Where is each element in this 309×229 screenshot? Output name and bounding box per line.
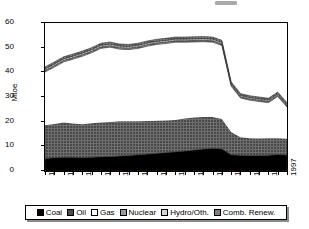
x-axis-tick-mark [278, 172, 279, 175]
legend-label: Gas [100, 209, 115, 217]
y-axis-tick-label: 20 [5, 117, 14, 125]
x-axis-tick-mark [222, 172, 223, 175]
x-axis-tick-mark [129, 172, 130, 175]
y-axis: Mtoe 0102030405060 [0, 0, 40, 229]
y-axis-tick-label: 30 [5, 92, 14, 100]
stacked-area-chart [45, 23, 287, 171]
x-axis-tick-mark [101, 172, 102, 175]
x-axis-tick-mark [110, 172, 111, 175]
x-axis-tick-mark [250, 172, 251, 175]
legend-label: Comb. Renew. [223, 209, 275, 217]
x-axis-tick-mark [213, 172, 214, 175]
legend-swatch-oil-icon [67, 209, 74, 216]
legend-item-gas[interactable]: Gas [91, 209, 115, 217]
x-axis-tick-mark [45, 172, 46, 175]
legend-label: Hydro/Oth. [170, 209, 209, 217]
scan-artifact [215, 1, 237, 5]
x-axis-tick-mark [73, 172, 74, 175]
legend-swatch-gas-icon [91, 209, 98, 216]
legend-swatch-combrenew-icon [214, 209, 221, 216]
chart-screenshot: Mtoe 0102030405060 [0, 0, 309, 229]
x-axis-tick-mark [194, 172, 195, 175]
legend-label: Coal [46, 209, 62, 217]
y-axis-tick-label: 40 [5, 67, 14, 75]
legend-item-coal[interactable]: Coal [37, 209, 62, 217]
chart-legend: CoalOilGasNuclearHydro/Oth.Comb. Renew. [25, 205, 287, 220]
x-axis-tick-mark [231, 172, 232, 175]
plot-area [44, 22, 288, 172]
legend-item-nuclear[interactable]: Nuclear [120, 209, 157, 217]
y-axis-tick-label: 50 [5, 43, 14, 51]
legend-label: Oil [76, 209, 86, 217]
y-axis-tick-label: 60 [5, 18, 14, 26]
legend-swatch-hydro-icon [161, 209, 168, 216]
x-axis-tick-mark [64, 172, 65, 175]
x-axis-tick-mark [166, 172, 167, 175]
legend-swatch-coal-icon [37, 209, 44, 216]
x-axis-tick-mark [138, 172, 139, 175]
x-axis-tick-mark [203, 172, 204, 175]
x-axis-tick-mark [54, 172, 55, 175]
x-axis-tick-mark [157, 172, 158, 175]
x-axis-tick-mark [92, 172, 93, 175]
legend-swatch-nuclear-icon [120, 209, 127, 216]
x-axis-tick-mark [240, 172, 241, 175]
x-axis-tick-mark [185, 172, 186, 175]
legend-item-hydro-oth[interactable]: Hydro/Oth. [161, 209, 209, 217]
y-axis-tick-label: 0 [10, 166, 14, 174]
y-axis-tick-label: 10 [5, 141, 14, 149]
legend-label: Nuclear [129, 209, 157, 217]
legend-item-oil[interactable]: Oil [67, 209, 86, 217]
legend-item-comb-renew[interactable]: Comb. Renew. [214, 209, 275, 217]
x-axis: 1971197319751977197919811983198519871989… [44, 172, 288, 202]
x-axis-tick-mark [287, 172, 288, 175]
x-axis-tick-mark [147, 172, 148, 175]
x-axis-tick-label: 1997 [290, 158, 298, 176]
x-axis-tick-mark [259, 172, 260, 175]
